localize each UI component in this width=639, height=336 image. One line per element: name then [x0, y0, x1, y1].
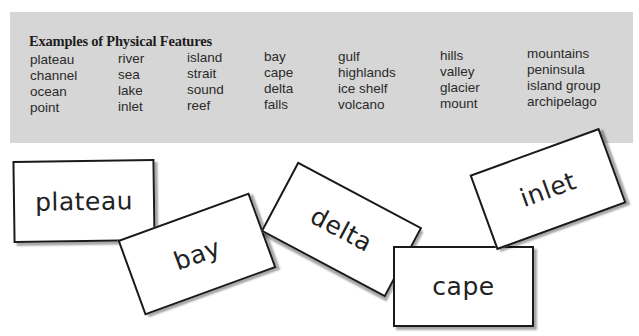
word-column-1: plateau channel ocean point: [30, 52, 77, 116]
word-column-5: gulf highlands ice shelf volcano: [338, 49, 396, 113]
word-card-inlet: inlet: [469, 128, 626, 250]
word-list-item: ice shelf: [338, 81, 396, 97]
word-column-3: island strait sound reef: [187, 50, 224, 114]
word-column-2: river sea lake inlet: [118, 51, 144, 115]
word-card-plateau: plateau: [12, 159, 155, 243]
card-word: inlet: [516, 166, 580, 213]
word-list-item: reef: [187, 98, 224, 114]
card-word: delta: [306, 201, 378, 258]
word-list-item: cape: [264, 65, 293, 81]
word-list-item: plateau: [30, 52, 77, 68]
word-list-item: gulf: [338, 49, 396, 65]
word-column-6: hills valley glacier mount: [440, 48, 480, 112]
word-card-cape: cape: [393, 246, 534, 327]
word-list-item: hills: [440, 48, 480, 64]
word-list-item: mountains: [527, 46, 601, 62]
word-list-item: valley: [440, 64, 480, 80]
card-word: bay: [170, 232, 225, 275]
word-list-item: strait: [187, 66, 224, 82]
word-list-item: lake: [118, 83, 144, 99]
word-list-item: peninsula: [527, 62, 601, 78]
word-list-item: mount: [440, 96, 480, 112]
word-list-item: archipelago: [527, 94, 601, 110]
word-list-item: sound: [187, 82, 224, 98]
card-word: plateau: [35, 186, 133, 216]
word-list-item: ocean: [30, 84, 77, 100]
word-list-item: delta: [264, 81, 293, 97]
word-list-item: bay: [264, 49, 293, 65]
word-list-item: channel: [30, 68, 77, 84]
card-word: cape: [432, 272, 494, 301]
word-list-item: inlet: [118, 99, 144, 115]
panel-title: Examples of Physical Features: [29, 33, 212, 50]
physical-features-panel: Examples of Physical Features plateau ch…: [10, 12, 633, 143]
word-list-item: glacier: [440, 80, 480, 96]
word-list-item: falls: [264, 97, 293, 113]
word-column-4: bay cape delta falls: [264, 49, 293, 113]
word-column-7: mountains peninsula island group archipe…: [527, 46, 601, 110]
word-list-item: island group: [527, 78, 601, 94]
word-list-item: island: [187, 50, 224, 66]
word-list-item: river: [118, 51, 144, 67]
word-list-item: volcano: [338, 97, 396, 113]
word-list-item: point: [30, 100, 77, 116]
word-list-item: highlands: [338, 65, 396, 81]
word-list-item: sea: [118, 67, 144, 83]
